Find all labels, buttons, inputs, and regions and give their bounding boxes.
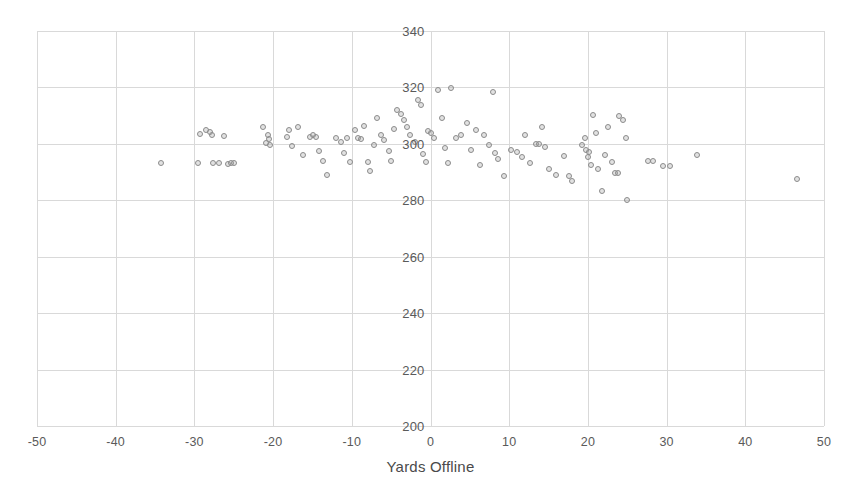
data-point <box>527 160 533 166</box>
y-axis-tick-label: 220 <box>389 362 425 377</box>
data-point <box>609 159 615 165</box>
data-point <box>623 135 629 141</box>
data-point <box>536 141 542 147</box>
data-point <box>582 135 588 141</box>
data-point <box>553 172 559 178</box>
x-axis-tick-label: 20 <box>581 435 595 449</box>
data-point <box>295 124 301 130</box>
data-point <box>445 160 451 166</box>
data-point <box>481 132 487 138</box>
data-point <box>458 132 464 138</box>
x-axis-tick-label: -20 <box>264 435 283 449</box>
y-axis-tick-label: 280 <box>389 193 425 208</box>
data-point <box>158 160 164 166</box>
data-point <box>519 154 525 160</box>
gridline-vertical <box>667 31 668 426</box>
y-axis-tick-label: 340 <box>389 24 425 39</box>
gridline-vertical <box>509 31 510 426</box>
data-point <box>590 112 596 118</box>
data-point <box>586 149 592 155</box>
x-axis-tick-label: -30 <box>185 435 204 449</box>
data-point <box>289 143 295 149</box>
data-point <box>388 158 394 164</box>
data-point <box>490 89 496 95</box>
gridline-vertical <box>431 31 432 426</box>
data-point <box>473 127 479 133</box>
data-point <box>495 156 501 162</box>
data-point <box>794 176 800 182</box>
data-point <box>320 158 326 164</box>
data-point <box>195 160 201 166</box>
data-point <box>439 115 445 121</box>
y-axis-tick-label: 300 <box>389 136 425 151</box>
x-axis-title: Yards Offline <box>0 458 861 475</box>
data-point <box>569 178 575 184</box>
data-point <box>595 166 601 172</box>
y-axis-tick-label: 200 <box>389 419 425 434</box>
data-point <box>464 120 470 126</box>
data-point <box>391 126 397 132</box>
data-point <box>435 87 441 93</box>
data-point <box>508 147 514 153</box>
gridline-vertical <box>273 31 274 426</box>
data-point <box>286 127 292 133</box>
plot-area <box>37 31 824 426</box>
data-point <box>371 142 377 148</box>
data-point <box>501 173 507 179</box>
gridline-vertical <box>588 31 589 426</box>
data-point <box>593 130 599 136</box>
x-axis-tick-label: 10 <box>502 435 516 449</box>
data-point <box>358 136 364 142</box>
data-point <box>660 163 666 169</box>
data-point <box>260 124 266 130</box>
data-point <box>423 159 429 165</box>
data-point <box>448 85 454 91</box>
gridline-vertical <box>745 31 746 426</box>
data-point <box>468 147 474 153</box>
data-point <box>620 117 626 123</box>
x-axis-tick-label: 30 <box>659 435 673 449</box>
data-point <box>209 132 215 138</box>
data-point <box>197 131 203 137</box>
data-point <box>338 139 344 145</box>
x-axis-tick-label: 0 <box>427 435 434 449</box>
gridline-vertical <box>352 31 353 426</box>
y-axis-tick-label: 260 <box>389 249 425 264</box>
data-point <box>231 160 237 166</box>
data-point <box>650 158 656 164</box>
data-point <box>588 162 594 168</box>
gridline-horizontal <box>37 426 824 427</box>
data-point <box>624 197 630 203</box>
data-point <box>313 134 319 140</box>
data-point <box>599 188 605 194</box>
x-axis-tick-label: 40 <box>738 435 752 449</box>
data-point <box>381 137 387 143</box>
data-point <box>522 132 528 138</box>
y-axis-tick-label: 240 <box>389 306 425 321</box>
data-point <box>542 144 548 150</box>
x-axis-tick-label: 50 <box>817 435 831 449</box>
data-point <box>365 159 371 165</box>
data-point <box>431 135 437 141</box>
data-point <box>341 150 347 156</box>
gridline-vertical <box>37 31 38 426</box>
data-point <box>401 117 407 123</box>
data-point <box>300 152 306 158</box>
x-axis-tick-label: -40 <box>106 435 125 449</box>
gridline-vertical <box>116 31 117 426</box>
data-point <box>585 154 591 160</box>
data-point <box>605 124 611 130</box>
data-point <box>615 170 621 176</box>
data-point <box>694 152 700 158</box>
scatter-chart: 200220240260280300320340 -50-40-30-20-10… <box>0 0 861 503</box>
data-point <box>418 102 424 108</box>
data-point <box>539 124 545 130</box>
data-point <box>374 115 380 121</box>
data-point <box>398 111 404 117</box>
data-point <box>442 145 448 151</box>
data-point <box>420 151 426 157</box>
y-axis-tick-label: 320 <box>389 80 425 95</box>
data-point <box>324 172 330 178</box>
data-point <box>404 124 410 130</box>
data-point <box>316 148 322 154</box>
